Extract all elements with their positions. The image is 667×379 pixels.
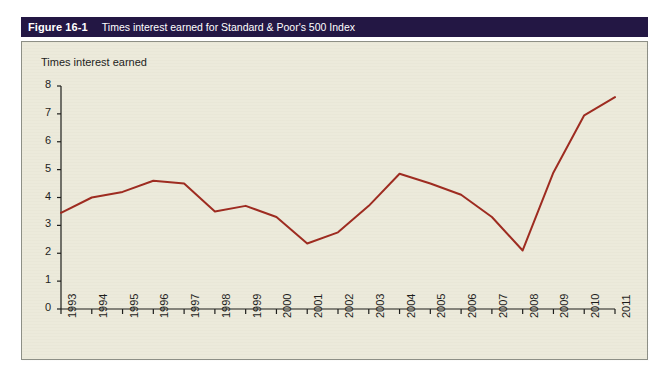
x-tick-label: 2010 — [589, 294, 601, 318]
chart-plot-area — [22, 42, 649, 361]
y-tick-label: 7 — [35, 106, 51, 118]
x-tick-label: 1999 — [251, 294, 263, 318]
x-tick-label: 2004 — [405, 294, 417, 318]
x-tick-label: 1997 — [189, 294, 201, 318]
y-tick-label: 5 — [35, 162, 51, 174]
x-tick-label: 2000 — [281, 294, 293, 318]
x-tick-label: 1993 — [66, 294, 78, 318]
line-chart: Times interest earned 012345678 19931994… — [22, 42, 649, 361]
x-tick-label: 2007 — [497, 294, 509, 318]
x-tick-label: 2001 — [312, 294, 324, 318]
x-tick-label: 2011 — [620, 294, 632, 318]
figure-caption: Times interest earned for Standard & Poo… — [102, 21, 355, 33]
figure-title-bar: Figure 16-1 Times interest earned for St… — [21, 17, 648, 37]
x-tick-label: 2002 — [343, 294, 355, 318]
y-tick-label: 3 — [35, 217, 51, 229]
x-tick-label: 2009 — [558, 294, 570, 318]
y-tick-label: 8 — [35, 78, 51, 90]
y-tick-label: 0 — [35, 301, 51, 313]
x-tick-label: 2006 — [466, 294, 478, 318]
y-tick-label: 6 — [35, 134, 51, 146]
x-tick-label: 1994 — [97, 294, 109, 318]
y-tick-label: 2 — [35, 245, 51, 257]
x-tick-label: 2005 — [435, 294, 447, 318]
x-tick-label: 1995 — [128, 294, 140, 318]
figure-root: Figure 16-1 Times interest earned for St… — [0, 0, 667, 379]
y-tick-label: 4 — [35, 190, 51, 202]
y-tick-label: 1 — [35, 273, 51, 285]
figure-number-label: Figure 16-1 — [28, 21, 88, 33]
figure-frame: Times interest earned 012345678 19931994… — [21, 41, 648, 360]
x-tick-label: 1996 — [158, 294, 170, 318]
x-tick-label: 2003 — [374, 294, 386, 318]
x-tick-label: 2008 — [528, 294, 540, 318]
x-tick-label: 1998 — [220, 294, 232, 318]
